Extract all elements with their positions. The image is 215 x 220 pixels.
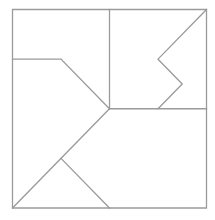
dissection-diagram (0, 0, 215, 220)
left-bent-line (13, 59, 110, 109)
zigzag-line (158, 10, 207, 109)
lower-branch (61, 158, 110, 208)
diagram-edges (13, 10, 207, 209)
